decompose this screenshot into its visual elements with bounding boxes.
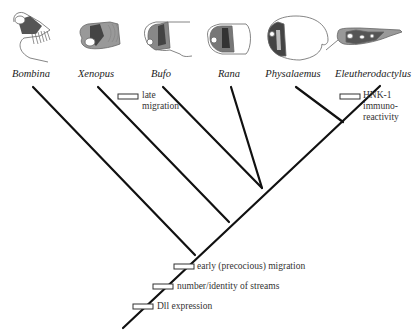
label-line: reactivity [363,112,399,123]
label-line: immuno- [363,101,399,112]
bar-early-migration [174,264,194,269]
taxon-label-xenopus: Xenopus [78,68,114,79]
bar-hnk1 [340,94,360,99]
embryo-eleutherodactylus-icon [326,28,402,50]
branch-physalaemus [296,87,343,122]
embryo-physalaemus-icon [268,16,328,60]
label-line: migration [142,101,179,112]
taxon-label-physalaemus: Physalaemus [265,68,320,79]
character-label-late-migration: late migration [142,90,179,112]
embryo-xenopus-icon [80,22,120,49]
embryo-rana-icon [208,24,251,54]
character-label-early-migration: early (precocious) migration [197,261,305,272]
character-bars [118,94,360,309]
bar-number-identity [153,284,173,289]
taxon-label-rana: Rana [218,68,240,79]
bar-dll-expression [133,304,153,309]
label-line: HNK-1 [363,90,399,101]
embryo-bufo-icon [144,22,192,57]
character-label-hnk1: HNK-1 immuno- reactivity [363,90,399,123]
label-line: late [142,90,179,101]
character-label-number-identity: number/identity of streams [177,281,279,292]
taxon-label-bufo: Bufo [151,68,171,79]
taxon-label-bombina: Bombina [12,68,50,79]
character-label-dll-expression: Dll expression [157,301,212,312]
taxon-label-eleutherodactylus: Eleutherodactylus [335,68,411,79]
bar-late-migration [118,94,138,99]
branch-bombina [33,87,195,255]
embryo-bombina-icon [14,12,50,62]
